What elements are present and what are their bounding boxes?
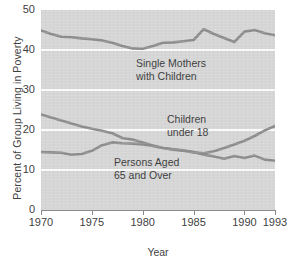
x-tick-mark-1970 — [41, 210, 42, 215]
y-tick-20: 20 — [5, 123, 35, 135]
y-tick-0: 0 — [5, 203, 35, 215]
x-axis-line — [41, 210, 276, 211]
y-tick-40: 40 — [5, 43, 35, 55]
x-tick-mark-1980 — [143, 210, 144, 215]
x-tick-mark-1993 — [275, 210, 276, 215]
annotation-single-mothers: Single Mothers with Children — [136, 57, 206, 82]
x-tick-1985: 1985 — [174, 216, 214, 228]
x-tick-mark-1975 — [92, 210, 93, 215]
x-tick-1970: 1970 — [21, 216, 61, 228]
x-tick-1993: 1993 — [255, 216, 288, 228]
y-tick-30: 30 — [5, 83, 35, 95]
y-tick-50: 50 — [5, 3, 35, 15]
x-tick-mark-1985 — [194, 210, 195, 215]
poverty-rate-line-chart: Percent of Group Living in Poverty 50403… — [0, 0, 288, 263]
annotation-persons-65-and-over: Persons Aged 65 and Over — [114, 156, 179, 181]
y-tick-10: 10 — [5, 163, 35, 175]
plot-area: Single Mothers with Children Children un… — [41, 10, 275, 210]
annotation-children-under-18: Children under 18 — [167, 113, 208, 138]
x-tick-1975: 1975 — [72, 216, 112, 228]
x-tick-1980: 1980 — [123, 216, 163, 228]
series-single-mothers — [41, 29, 275, 49]
x-tick-mark-1990 — [244, 210, 245, 215]
x-axis-title: Year — [41, 246, 275, 258]
